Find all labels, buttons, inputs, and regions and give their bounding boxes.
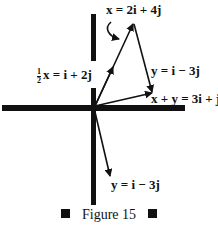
label-half-x: 1 2 x = i + 2j	[37, 68, 92, 85]
vertical-axis-upper	[91, 14, 96, 61]
figure-caption: Figure 15	[0, 207, 218, 223]
fraction-one-half: 1 2	[37, 68, 41, 85]
label-x-vector: x = 2i + 4j	[106, 3, 161, 16]
vector-y-upper	[134, 24, 152, 92]
vector-diagram	[0, 0, 218, 235]
vector-y-lower	[95, 112, 110, 176]
label-half-x-rest: x = i + 2j	[43, 67, 92, 82]
curved-pointer-arrow	[108, 22, 119, 39]
caption-square-left-icon	[61, 209, 70, 218]
label-y-vector-lower: y = i − 3j	[111, 178, 160, 191]
label-sum-vector: x + y = 3i + j	[151, 92, 218, 105]
caption-text: Figure 15	[82, 207, 136, 222]
vector-sum	[95, 93, 152, 106]
caption-square-right-icon	[148, 209, 157, 218]
vector-half-x	[95, 67, 113, 106]
label-y-vector-upper: y = i − 3j	[151, 64, 200, 77]
